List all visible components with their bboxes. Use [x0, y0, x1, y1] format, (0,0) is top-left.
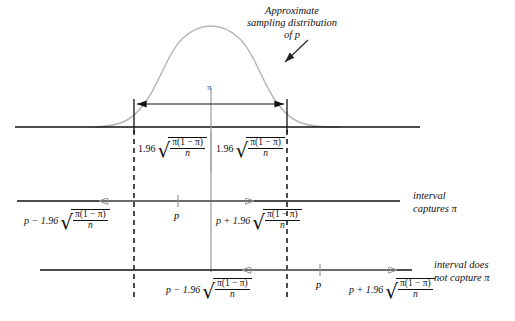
- row-not-captures-upper-label: p + 1.96√π(1 − π)n: [349, 279, 435, 301]
- margin-label-right-denominator: n: [248, 149, 283, 159]
- curve-annotation: Approximate sampling distribution of p: [229, 5, 355, 41]
- normal-curve: [95, 26, 340, 127]
- figure-canvas: Approximate sampling distribution of p π…: [0, 0, 515, 321]
- row-not-captures-result-line1: interval does: [434, 258, 490, 271]
- row-captures-result-line1: interval: [413, 189, 457, 202]
- curve-annotation-line1: Approximate: [229, 5, 355, 17]
- row-not-captures-center-label: p: [316, 279, 321, 290]
- row-captures-lower-prefix: p − 1.96: [24, 215, 58, 226]
- row-captures-lower-label: p − 1.96√π(1 − π)n: [24, 210, 110, 232]
- row-captures-lower-denominator: n: [73, 221, 108, 231]
- margin-label-left: 1.96√π(1 − π)n: [138, 138, 207, 160]
- radical-left: √π(1 − π)n: [156, 138, 208, 160]
- radical-row2-lower: √π(1 − π)n: [200, 279, 252, 301]
- row-not-captures-result-line2: not capture π: [434, 271, 490, 284]
- row-captures-upper-denominator: n: [265, 221, 300, 231]
- radical-row2-upper: √π(1 − π)n: [383, 279, 435, 301]
- row-not-captures-lower-denominator: n: [215, 290, 250, 300]
- row-captures-center-label: p: [174, 210, 179, 221]
- margin-label-right: 1.96√π(1 − π)n: [216, 138, 285, 160]
- row-captures-result-line2: captures π: [413, 202, 457, 215]
- row-not-captures-result: interval does not capture π: [434, 258, 490, 284]
- radical-right: √π(1 − π)n: [234, 138, 286, 160]
- curve-annotation-line3: of p: [229, 29, 355, 41]
- radical-row1-lower: √π(1 − π)n: [58, 210, 110, 232]
- row-not-captures-lower-label: p − 1.96√π(1 − π)n: [166, 279, 252, 301]
- margin-label-right-coefficient: 1.96: [216, 143, 234, 154]
- row-captures-result: interval captures π: [413, 189, 457, 215]
- margin-label-left-coefficient: 1.96: [138, 143, 156, 154]
- row-captures-upper-label: p + 1.96√π(1 − π)n: [216, 210, 302, 232]
- row-captures-upper-prefix: p + 1.96: [216, 215, 250, 226]
- radical-row1-upper: √π(1 − π)n: [250, 210, 302, 232]
- annotation-pointer: [285, 40, 308, 62]
- row-not-captures-lower-prefix: p − 1.96: [166, 284, 200, 295]
- row-not-captures-upper-denominator: n: [398, 290, 433, 300]
- center-tick-label: π: [207, 82, 212, 92]
- row-not-captures-upper-prefix: p + 1.96: [349, 284, 383, 295]
- margin-label-left-denominator: n: [170, 149, 205, 159]
- curve-annotation-line2: sampling distribution: [229, 17, 355, 29]
